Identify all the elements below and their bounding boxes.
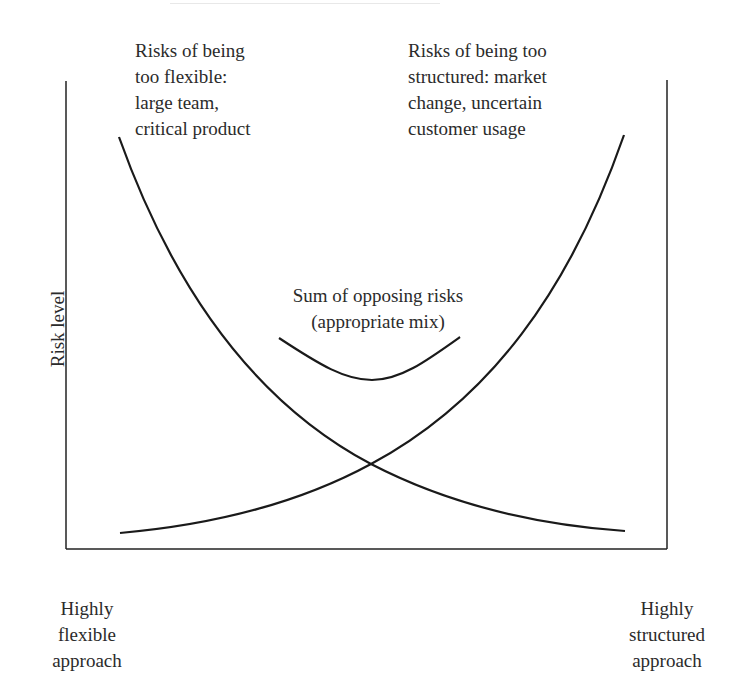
label-line: flexible — [32, 622, 142, 648]
label-line: Highly — [602, 596, 732, 622]
curve-sum — [279, 337, 460, 380]
label-line: customer usage — [408, 116, 547, 142]
label-line: (appropriate mix) — [258, 309, 498, 335]
y-axis-label: Risk level — [47, 279, 69, 379]
risk-chart — [0, 0, 742, 684]
x-label-right: Highly structured approach — [602, 596, 732, 674]
label-line: too flexible: — [135, 64, 251, 90]
label-too-flexible: Risks of being too flexible: large team,… — [135, 38, 251, 142]
label-line: structured: market — [408, 64, 547, 90]
label-line: Risks of being too — [408, 38, 547, 64]
label-line: change, uncertain — [408, 90, 547, 116]
label-line: Risks of being — [135, 38, 251, 64]
label-too-structured: Risks of being too structured: market ch… — [408, 38, 547, 142]
label-line: Sum of opposing risks — [258, 283, 498, 309]
label-line: approach — [32, 648, 142, 674]
label-line: Highly — [32, 596, 142, 622]
label-line: structured — [602, 622, 732, 648]
label-line: large team, — [135, 90, 251, 116]
label-line: critical product — [135, 116, 251, 142]
label-sum: Sum of opposing risks (appropriate mix) — [258, 283, 498, 335]
label-line: approach — [602, 648, 732, 674]
x-label-left: Highly flexible approach — [32, 596, 142, 674]
